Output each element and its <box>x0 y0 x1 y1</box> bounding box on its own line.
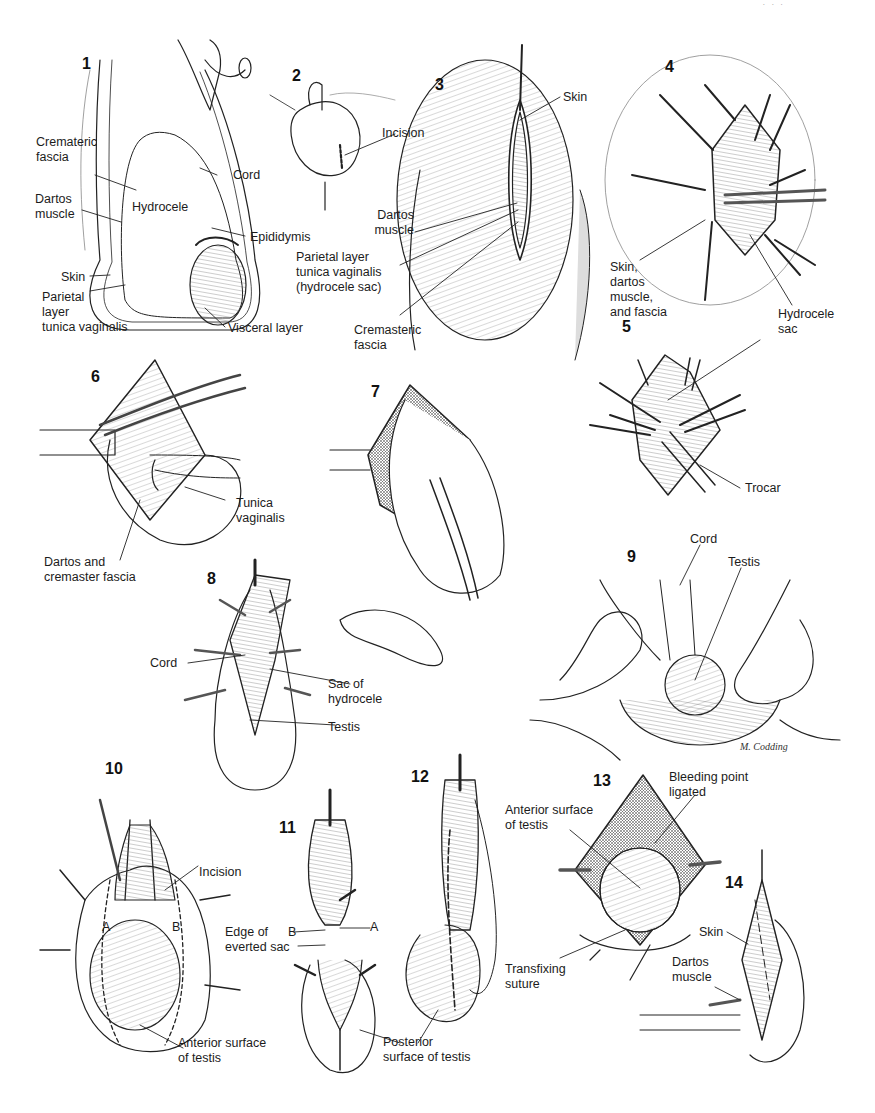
figure-8-drawing <box>185 560 310 790</box>
figure-2-drawing <box>270 82 395 210</box>
label-fig14-skin: Skin <box>699 925 723 940</box>
figure-6-drawing <box>40 360 245 544</box>
label-fig1-dartos-muscle: Dartos muscle <box>35 192 75 222</box>
label-fig1-visceral-layer: Visceral layer <box>228 321 303 336</box>
figure-number-8: 8 <box>207 570 216 588</box>
figure-number-4: 4 <box>665 58 674 76</box>
label-fig2-incision: Incision <box>382 126 424 141</box>
label-fig8-sac-of-hydrocele: Sac of hydrocele <box>328 677 382 707</box>
figure-number-7: 7 <box>371 383 380 401</box>
figure-number-2: 2 <box>292 67 301 85</box>
figure-number-14: 14 <box>725 874 743 892</box>
label-fig8-cord: Cord <box>150 656 177 671</box>
label-fig1-parietal-layer: Parietal layer tunica vaginalis <box>42 290 127 335</box>
figure-number-6: 6 <box>91 368 100 386</box>
label-fig1-skin: Skin <box>61 270 85 285</box>
figure-number-5: 5 <box>622 318 631 336</box>
figure-3-drawing <box>397 45 590 360</box>
label-fig10-a: A <box>102 920 110 935</box>
label-fig10-b: B <box>172 920 180 935</box>
label-fig10-incision: Incision <box>199 865 241 880</box>
surgical-illustration-plate: · · · <box>0 0 875 1113</box>
figure-number-1: 1 <box>82 55 91 73</box>
figure-12-drawing <box>406 755 496 1021</box>
label-fig1-epididymis: Epididymis <box>250 230 310 245</box>
label-fig9-cord: Cord <box>690 532 717 547</box>
illustrator-signature: M. Codding <box>739 741 788 752</box>
label-fig9-testis: Testis <box>728 555 760 570</box>
label-fig12-posterior-surface: Posterior surface of testis <box>383 1035 471 1065</box>
figure-number-3: 3 <box>435 76 444 94</box>
label-fig13-transfixing-suture: Transfixing suture <box>505 962 566 992</box>
label-fig1-crematic-fascia: Cremateric fascia <box>36 135 97 165</box>
label-fig4-hydrocele-sac: Hydrocele sac <box>778 307 834 337</box>
label-fig1-cord: Cord <box>233 168 260 183</box>
label-fig3-parietal-layer: Parietal layer tunica vaginalis (hydroce… <box>296 250 381 295</box>
figure-number-10: 10 <box>105 760 123 778</box>
label-fig10-anterior-surface: Anterior surface of testis <box>178 1036 266 1066</box>
figure-5-drawing <box>590 355 745 495</box>
label-fig8-testis: Testis <box>328 720 360 735</box>
label-fig3-dartos-muscle: Dartos muscle <box>360 208 414 238</box>
figure-number-12: 12 <box>411 768 429 786</box>
figure-9-drawing: M. Codding <box>530 580 840 760</box>
figure-7-drawing <box>330 385 504 666</box>
label-fig11-a: A <box>370 920 378 935</box>
figure-number-13: 13 <box>593 772 611 790</box>
figure-10-drawing <box>40 800 240 1052</box>
label-fig5-trocar: Trocar <box>745 481 781 496</box>
label-fig11-b: B <box>288 925 296 940</box>
label-fig6-dartos-cremaster: Dartos and cremaster fascia <box>44 555 136 585</box>
figure-number-11: 11 <box>279 819 296 837</box>
label-fig13-bleeding-point: Bleeding point ligated <box>669 770 748 800</box>
figure-number-9: 9 <box>627 548 636 566</box>
label-fig3-cremasteric-fascia: Cremasteric fascia <box>354 323 421 353</box>
label-fig6-tunica-vaginalis: Tunica vaginalis <box>236 496 285 526</box>
label-fig1-hydrocele: Hydrocele <box>132 200 188 215</box>
label-fig4-skin-dartos-fascia: Skin, dartos muscle, and fascia <box>610 260 667 320</box>
label-fig11-edge-everted-sac: Edge of everted sac <box>225 925 290 955</box>
label-fig13-anterior-surface: Anterior surface of testis <box>505 803 593 833</box>
label-fig3-skin: Skin <box>563 90 587 105</box>
label-fig14-dartos-muscle: Dartos muscle <box>672 955 712 985</box>
figure-1-drawing <box>81 40 260 330</box>
